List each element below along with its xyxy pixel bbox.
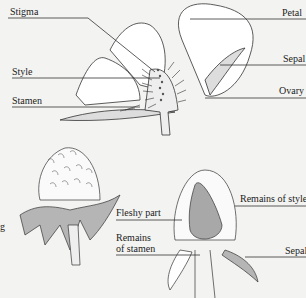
label-stigma: Stigma: [10, 6, 38, 17]
label-remains-of-stamen-1: Remains: [116, 232, 151, 243]
label-sepal-bottom: Sepal: [285, 245, 306, 256]
fruit-section-illustration: [168, 170, 258, 298]
label-remains-of-style: Remains of style: [240, 193, 306, 204]
label-petal: Petal: [282, 7, 302, 18]
label-stamen: Stamen: [12, 95, 42, 106]
label-ovary: Ovary: [279, 85, 304, 96]
flower-section-illustration: [60, 4, 253, 135]
label-remains-of-stamen-2: of stamen: [116, 243, 155, 254]
whole-fruit-illustration: [20, 148, 120, 265]
label-fleshy-part: Fleshy part: [116, 207, 161, 218]
label-style: Style: [12, 66, 33, 77]
label-sepal-top: Sepal: [283, 53, 305, 64]
label-partial-left: g: [0, 221, 5, 232]
